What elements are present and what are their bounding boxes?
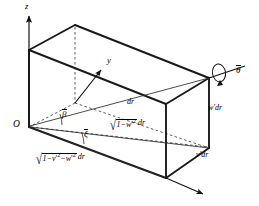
- edge-top-left-back: [29, 25, 75, 50]
- w-prime-dr-label: w′dr: [208, 104, 222, 112]
- radicand-vw: 1−v′2−w′2: [42, 153, 77, 163]
- angle-theta-label: θ: [236, 66, 240, 75]
- v-prime-dr-label: v′dr: [196, 151, 208, 159]
- dr-label: dr: [127, 98, 134, 106]
- dashed-back-left: [29, 103, 75, 127]
- edge-top-far-front: [166, 78, 209, 104]
- y-axis-label: y: [107, 56, 111, 65]
- figure-canvas: z y O β ξ θ dr w′dr v′dr √1−w′2dr √1−v′2…: [0, 0, 259, 206]
- radicand-w-exponent: 2: [133, 118, 136, 124]
- xi-symbol: ξ: [84, 129, 88, 139]
- angle-xi-label: ξ: [84, 130, 88, 139]
- radical-sign-w: √: [110, 119, 116, 132]
- axes-group: [29, 16, 203, 194]
- sqrt-vw-tail: dr: [77, 153, 85, 161]
- sqrt-one-minus-v-w-label: √1−v′2−w′2dr: [36, 153, 85, 163]
- z-axis-label: z: [25, 2, 28, 11]
- origin-label: O: [13, 120, 20, 130]
- theta-symbol: θ: [236, 65, 240, 75]
- radicand-vw-second: −w: [60, 154, 71, 163]
- sqrt-one-minus-w-label: √1−w′2dr: [110, 119, 145, 129]
- x-axis: [166, 178, 203, 194]
- beta-symbol: β: [62, 109, 66, 119]
- beta-overbar: [62, 109, 66, 110]
- edge-top-front-left: [29, 50, 166, 104]
- radicand-w: 1−w′2: [116, 119, 137, 129]
- y-axis: [75, 70, 101, 103]
- theta-overbar: [236, 65, 240, 66]
- radicand-vw-exp2: 2: [73, 152, 76, 158]
- radicand-vw-first: 1−v: [43, 154, 56, 163]
- angle-beta-label: β: [62, 110, 66, 119]
- radical-sign-vw: √: [36, 153, 42, 166]
- sqrt-w-tail: dr: [137, 119, 145, 127]
- xi-overbar: [84, 129, 88, 130]
- radicand-w-text: 1−w: [117, 120, 132, 129]
- edge-top-back-far: [75, 25, 209, 78]
